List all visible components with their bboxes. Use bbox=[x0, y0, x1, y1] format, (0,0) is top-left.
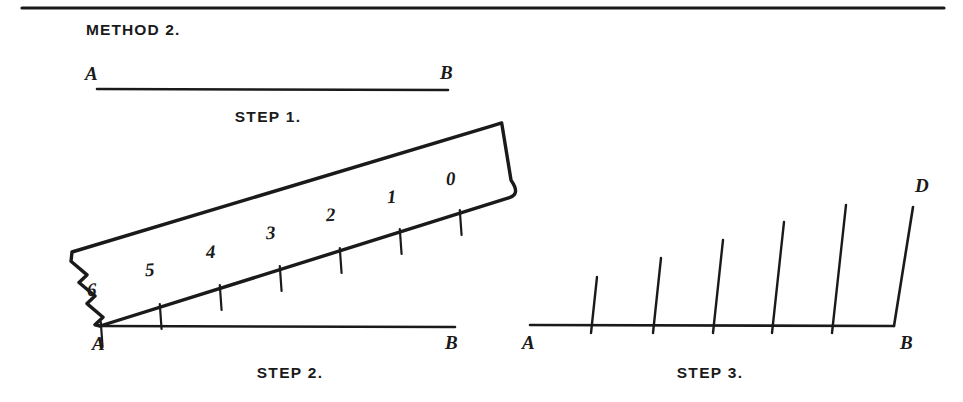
point-label-d-step3: D bbox=[914, 175, 929, 196]
page-title: METHOD 2. bbox=[86, 21, 180, 38]
point-label-b-step1: B bbox=[439, 62, 453, 83]
ruler-numeral-3: 3 bbox=[264, 222, 276, 244]
ruler-numeral-4: 4 bbox=[204, 241, 216, 263]
point-label-b-step3: B bbox=[899, 332, 913, 353]
method-2-construction-diagram: METHOD 2. A B STEP 1. 6543210 A B STEP 2… bbox=[0, 0, 963, 402]
segment-ab-line-step1 bbox=[97, 89, 448, 90]
step-2-caption: STEP 2. bbox=[257, 364, 324, 381]
division-tick-group bbox=[591, 205, 846, 333]
point-label-a-step2: A bbox=[91, 333, 105, 354]
point-label-b-step2: B bbox=[444, 332, 458, 353]
ruler-numeral-2: 2 bbox=[324, 204, 336, 226]
ruler-numeral-0: 0 bbox=[445, 168, 456, 189]
segment-ab-line-step3 bbox=[530, 325, 894, 326]
division-tick-2 bbox=[653, 258, 661, 333]
step-2-group: 6543210 A B STEP 2. bbox=[71, 123, 516, 381]
ruler-numeral-1: 1 bbox=[386, 186, 397, 207]
division-tick-4 bbox=[772, 222, 784, 333]
step-3-group: A B D STEP 3. bbox=[521, 175, 929, 381]
step-3-caption: STEP 3. bbox=[677, 364, 744, 381]
figure-root: METHOD 2. A B STEP 1. 6543210 A B STEP 2… bbox=[0, 0, 963, 402]
step-1-caption: STEP 1. bbox=[235, 108, 302, 125]
point-label-a-step3: A bbox=[521, 332, 535, 353]
construction-line-bd bbox=[894, 207, 913, 326]
segment-ab-line-step2 bbox=[100, 326, 455, 327]
point-label-a-step1: A bbox=[84, 63, 98, 84]
ruler-numeral-6: 6 bbox=[86, 279, 97, 300]
ruler-icon bbox=[71, 123, 516, 326]
division-tick-3 bbox=[713, 240, 723, 333]
ruler-numeral-5: 5 bbox=[144, 259, 155, 280]
step-1-group: A B STEP 1. bbox=[84, 62, 453, 125]
division-tick-5 bbox=[832, 205, 846, 333]
